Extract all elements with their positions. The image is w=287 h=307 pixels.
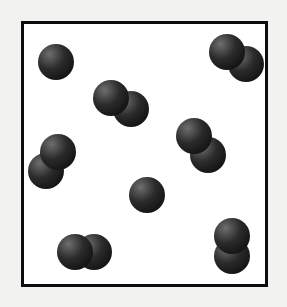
particle-diatomic xyxy=(40,134,76,170)
particle-layer xyxy=(0,0,287,307)
particle-monatomic xyxy=(129,177,165,213)
particle-diatomic xyxy=(209,34,245,70)
particle-monatomic xyxy=(38,44,74,80)
particle-diatomic xyxy=(214,218,250,254)
particle-diatomic xyxy=(93,80,129,116)
particle-diatomic xyxy=(57,234,93,270)
particle-diatomic xyxy=(176,118,212,154)
figure-canvas xyxy=(0,0,287,307)
